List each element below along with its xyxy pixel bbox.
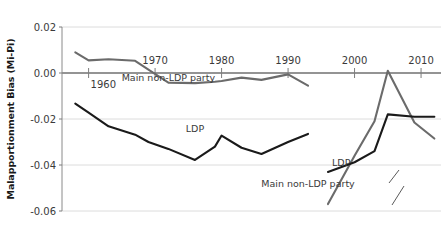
series-label: Main non-LDP party xyxy=(122,72,216,83)
chart-background xyxy=(0,0,448,235)
x-tick-label: 1960 xyxy=(91,79,116,90)
x-tick-label: 1970 xyxy=(142,55,167,66)
series-label: LDP xyxy=(332,157,351,168)
series-label: Main non-LDP party xyxy=(261,178,355,189)
x-tick-label: 2000 xyxy=(342,55,367,66)
line-chart: 0.020.00-0.02-0.04-0.06 1960197019801990… xyxy=(0,0,448,235)
y-tick-label: -0.06 xyxy=(30,206,56,217)
y-tick-label: 0.02 xyxy=(34,22,56,33)
y-axis-title: Malapportionment Bias (Mi-Pi) xyxy=(5,39,16,200)
y-tick-label: -0.02 xyxy=(30,114,56,125)
y-tick-label: -0.04 xyxy=(30,160,56,171)
x-tick-label: 1980 xyxy=(209,55,234,66)
y-tick-label: 0.00 xyxy=(34,68,56,79)
chart-container: 0.020.00-0.02-0.04-0.06 1960197019801990… xyxy=(0,0,448,235)
x-tick-label: 2010 xyxy=(408,55,433,66)
series-label: LDP xyxy=(186,123,205,134)
x-tick-label: 1990 xyxy=(275,55,300,66)
